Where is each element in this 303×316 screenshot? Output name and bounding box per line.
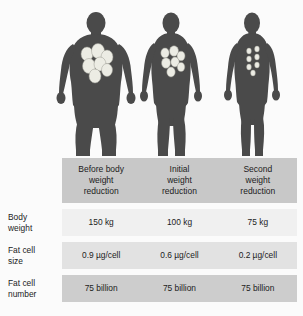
column-header-second-reduction: Second weight reduction [219, 158, 297, 203]
row-label-line: Body [8, 212, 62, 223]
column-header-line: weight [246, 175, 271, 186]
cell-fat-cell-size-second: 0.2 µg/cell [219, 242, 297, 269]
cell-fat-cell-size-before: 0.9 µg/cell [62, 242, 140, 269]
header-row-label-spacer [6, 158, 62, 203]
column-header-line: Initial [170, 164, 190, 175]
column-header-line: weight [167, 175, 192, 186]
cell-fat-cell-number-initial: 75 billion [140, 275, 218, 302]
lean-body-icon [213, 10, 291, 158]
obese-body-icon [50, 10, 142, 158]
column-header-line: reduction [162, 186, 197, 197]
body-silhouette-initial-reduction [131, 10, 211, 162]
column-header-line: reduction [240, 186, 275, 197]
cell-fat-cell-number-before: 75 billion [62, 275, 140, 302]
body-silhouette-second-reduction [213, 10, 291, 162]
row-label-body-weight: Body weight [6, 209, 62, 236]
table-row: Body weight 150 kg 100 kg 75 kg [6, 209, 297, 236]
table-row: Fat cell size 0.9 µg/cell 0.6 µg/cell 0.… [6, 242, 297, 269]
cell-body-weight-initial: 100 kg [140, 209, 218, 236]
medium-body-icon [131, 10, 211, 158]
row-label-line: number [8, 289, 62, 300]
column-header-line: reduction [84, 186, 119, 197]
column-header-line: Before body [78, 164, 124, 175]
row-label-fat-cell-size: Fat cell size [6, 242, 62, 269]
column-header-line: weight [89, 175, 114, 186]
cell-body-weight-second: 75 kg [219, 209, 297, 236]
cell-fat-cell-size-initial: 0.6 µg/cell [140, 242, 218, 269]
row-label-line: size [8, 256, 62, 267]
cell-fat-cell-number-second: 75 billion [219, 275, 297, 302]
row-label-fat-cell-number: Fat cell number [6, 275, 62, 302]
body-silhouette-before-reduction [50, 10, 142, 162]
figure-panel: Before body weight reduction Initial wei… [0, 0, 303, 316]
comparison-table: Before body weight reduction Initial wei… [6, 158, 297, 302]
column-header-initial-reduction: Initial weight reduction [140, 158, 218, 203]
row-label-line: Fat cell [8, 278, 62, 289]
table-row: Fat cell number 75 billion 75 billion 75… [6, 275, 297, 302]
row-label-line: weight [8, 223, 62, 234]
column-header-line: Second [243, 164, 272, 175]
row-label-line: Fat cell [8, 245, 62, 256]
table-header-row: Before body weight reduction Initial wei… [6, 158, 297, 203]
column-header-before-reduction: Before body weight reduction [62, 158, 140, 203]
cell-body-weight-before: 150 kg [62, 209, 140, 236]
body-silhouettes-group [0, 0, 303, 162]
